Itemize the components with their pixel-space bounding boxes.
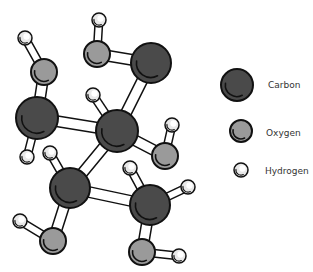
carbon-atom [16, 97, 58, 139]
hydrogen-atom [123, 161, 137, 175]
hydrogen-atom [18, 31, 32, 45]
hydrogen-atom [92, 13, 106, 27]
oxygen-atom [40, 228, 66, 254]
carbon-atom [96, 110, 138, 152]
hydrogen-atom [86, 88, 100, 102]
hydrogen-atom [165, 118, 179, 132]
hydrogen-atom [181, 180, 195, 194]
carbon-atom [50, 168, 90, 208]
oxygen-atom [129, 239, 155, 265]
oxygen-atom [31, 59, 57, 85]
hydrogen-atom [43, 146, 57, 160]
legend-carbon-icon [221, 69, 253, 101]
hydrogen-atom [172, 249, 186, 263]
hydrogen-atom [20, 150, 34, 164]
carbon-atom [130, 185, 170, 225]
oxygen-atom [84, 41, 110, 67]
hydrogen-atom [13, 214, 27, 228]
legend [221, 69, 253, 177]
legend-label-carbon: Carbon [268, 80, 300, 90]
legend-label-hydrogen: Hydrogen [265, 166, 309, 176]
legend-hydrogen-icon [234, 163, 248, 177]
carbon-atom [131, 43, 171, 83]
oxygen-atom [152, 143, 178, 169]
legend-oxygen-icon [230, 120, 252, 142]
legend-label-oxygen: Oxygen [266, 128, 301, 138]
